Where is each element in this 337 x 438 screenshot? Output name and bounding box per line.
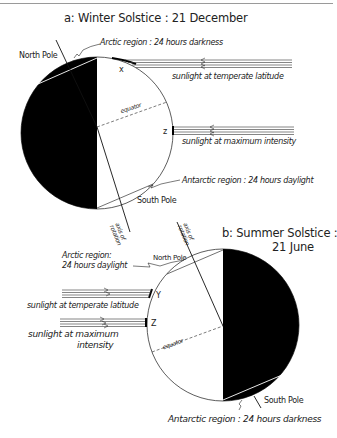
arctic-region-label-b-line2: 24 hours daylight xyxy=(62,261,127,270)
south-pole-label-a: South Pole xyxy=(137,196,176,205)
antarctic-region-label-b: Antarctic region : 24 hours darkness xyxy=(168,414,321,424)
sunlight-maximum-label-b-line2: intensity xyxy=(77,340,113,350)
winter-title: a: Winter Solstice : 21 December xyxy=(64,11,247,25)
summer-title-line2: 21 June xyxy=(272,240,314,254)
sunlight-temperate-label-b: sunlight at temperate latitude xyxy=(27,301,139,310)
north-pole-label-a: North Pole xyxy=(19,51,58,60)
point-z-label-a: z xyxy=(163,127,167,136)
sunlight-maximum-label-a: sunlight at maximum intensity xyxy=(182,137,296,146)
south-pole-label-b: South Pole xyxy=(264,396,303,405)
arctic-region-label-a: Arctic region : 24 hours darkness xyxy=(100,38,223,47)
point-x-label: x xyxy=(119,65,123,74)
point-y-label: Y xyxy=(156,291,161,300)
sunlight-temperate-label-a: sunlight at temperate latitude xyxy=(172,72,284,81)
sunlight-maximum-label-b-line1: sunlight at maximum xyxy=(28,329,118,339)
north-pole-label-b: North Pole xyxy=(153,254,186,262)
summer-title-line1: b: Summer Solstice : xyxy=(222,226,337,240)
antarctic-region-label-a: Antarctic region : 24 hours daylight xyxy=(182,176,313,185)
point-z-label-b: Z xyxy=(151,319,156,328)
arctic-region-label-b-line1: Arctic region: xyxy=(62,251,111,260)
